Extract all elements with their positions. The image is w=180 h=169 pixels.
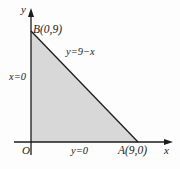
point-a-label: A(9,0) <box>118 145 147 157</box>
origin-label: O <box>22 145 30 156</box>
x-boundary-label: x=0 <box>9 72 26 83</box>
y-axis-arrowhead-icon <box>28 8 34 17</box>
point-b-label: B(0,9) <box>33 24 62 36</box>
y-axis-label: y <box>21 4 26 15</box>
y-boundary-label: y=0 <box>71 146 88 157</box>
line-equation-label: y=9−x <box>66 47 95 58</box>
math-figure-triangle-region: y x O B(0,9) A(9,0) y=9−x x=0 y=0 <box>0 0 180 169</box>
x-axis-label: x <box>164 145 169 156</box>
